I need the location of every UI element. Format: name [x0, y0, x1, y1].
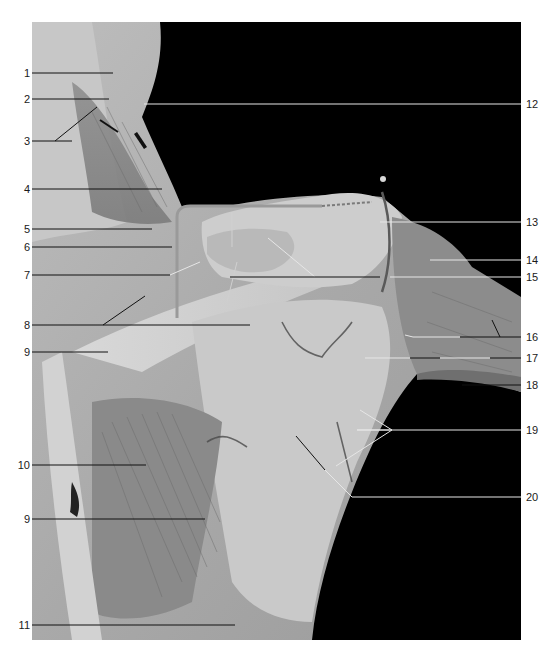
label-8: 8: [8, 319, 30, 331]
label-13: 13: [526, 216, 538, 228]
label-3: 3: [8, 135, 30, 147]
dissection-photo: [32, 22, 521, 640]
label-17: 17: [526, 352, 538, 364]
label-9b: 9: [8, 513, 30, 525]
label-19: 19: [526, 424, 538, 436]
label-10: 10: [8, 459, 30, 471]
dissection-photo-illustration: [32, 22, 521, 640]
label-4: 4: [8, 183, 30, 195]
label-11: 11: [8, 619, 30, 631]
label-6: 6: [8, 241, 30, 253]
label-16: 16: [526, 331, 538, 343]
label-5: 5: [8, 223, 30, 235]
label-2: 2: [8, 93, 30, 105]
label-1: 1: [8, 67, 30, 79]
label-18: 18: [526, 379, 538, 391]
label-9a: 9: [8, 346, 30, 358]
label-20: 20: [526, 491, 538, 503]
label-12: 12: [526, 98, 538, 110]
label-14: 14: [526, 254, 538, 266]
label-15: 15: [526, 271, 538, 283]
anatomy-figure: 1 2 3 4 5 6 7 8 9 10 9 11 12 13 14 15 16…: [0, 0, 552, 653]
label-7: 7: [8, 269, 30, 281]
